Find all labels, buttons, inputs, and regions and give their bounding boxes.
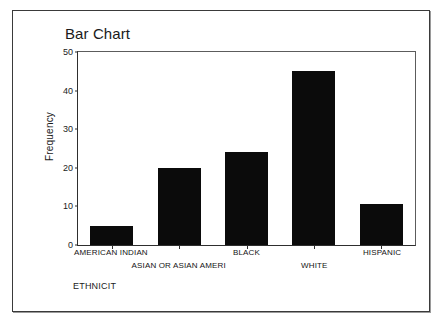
x-axis-tick-label: AMERICAN INDIAN <box>74 249 148 257</box>
x-axis-tick-label: HISPANIC <box>363 249 401 257</box>
y-axis-tick-label: 20 <box>63 163 73 172</box>
x-axis-tick-label: ASIAN OR ASIAN AMERI <box>132 262 226 270</box>
bar[interactable] <box>225 152 268 245</box>
y-axis-tick-mark <box>75 206 78 207</box>
y-axis-tick-mark <box>75 90 78 91</box>
bar-slot <box>78 52 145 245</box>
bar-slot <box>348 52 415 245</box>
y-axis-tick-mark <box>75 245 78 246</box>
bar-slot <box>280 52 347 245</box>
bars-layer <box>78 52 415 245</box>
x-axis-tick-label: WHITE <box>301 262 328 270</box>
chart-window: Bar Chart Frequency 01020304050 AMERICAN… <box>12 10 430 312</box>
y-axis-tick-label: 0 <box>68 241 73 250</box>
x-axis-tick-label: BLACK <box>233 249 260 257</box>
y-axis-tick-mark <box>75 129 78 130</box>
x-axis-title: ETHNICIT <box>73 281 116 291</box>
bar-slot <box>145 52 212 245</box>
bar[interactable] <box>292 71 335 245</box>
x-axis-labels: AMERICAN INDIANASIAN OR ASIAN AMERIBLACK… <box>77 247 416 287</box>
y-axis-tick-label: 40 <box>63 86 73 95</box>
y-axis-tick-label: 50 <box>63 48 73 57</box>
y-axis-tick-mark <box>75 52 78 53</box>
y-axis-tick-label: 30 <box>63 125 73 134</box>
chart-title: Bar Chart <box>65 25 130 42</box>
y-axis-tick-label: 10 <box>63 202 73 211</box>
bar[interactable] <box>158 168 201 245</box>
bar[interactable] <box>90 226 133 245</box>
bar[interactable] <box>360 204 403 245</box>
y-axis-title: Frequency <box>44 112 55 161</box>
bar-slot <box>213 52 280 245</box>
y-axis-tick-mark <box>75 167 78 168</box>
plot-area: 01020304050 <box>77 51 416 246</box>
